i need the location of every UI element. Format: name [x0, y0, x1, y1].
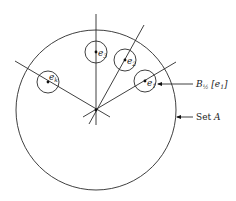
svg-text:ek: ek [49, 72, 58, 83]
arrowhead-icon [157, 82, 162, 86]
ball-ek: ek [37, 71, 59, 93]
svg-text:e2: e2 [127, 56, 136, 67]
ball-e2: e2 [114, 49, 136, 71]
ball-e1: e1 [134, 70, 156, 92]
set-diagram: e1 e2 e3 ek B½ [e1] Set A [0, 0, 236, 201]
ball-label: B½ [e1] [195, 79, 228, 90]
set-label: Set A [196, 112, 221, 122]
svg-text:e3: e3 [98, 48, 107, 59]
svg-text:e1: e1 [147, 78, 156, 89]
arrowhead-icon [176, 115, 181, 119]
hub-point [95, 109, 98, 112]
